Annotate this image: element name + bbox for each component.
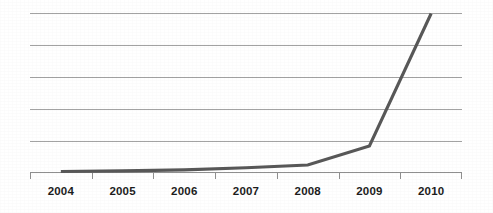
x-axis-tick-label-row: 2004 2005 2006 2007 2008 2009 2010 (30, 184, 462, 204)
x-tick-label-2005: 2005 (92, 184, 154, 204)
x-tick-label-2009: 2009 (339, 184, 401, 204)
line-chart-figure: 2004 2005 2006 2007 2008 2009 2010 (0, 0, 493, 213)
x-tick-label-2006: 2006 (153, 184, 215, 204)
x-tick-label-2008: 2008 (277, 184, 339, 204)
gridline-group (30, 14, 462, 142)
chart-plot-area (0, 0, 493, 213)
x-tick-label-2007: 2007 (215, 184, 277, 204)
x-tick-label-2004: 2004 (30, 184, 92, 204)
series-line-path (61, 14, 431, 172)
data-series-group (61, 14, 431, 172)
x-axis-group (30, 173, 462, 180)
x-tick-label-2010: 2010 (400, 184, 462, 204)
